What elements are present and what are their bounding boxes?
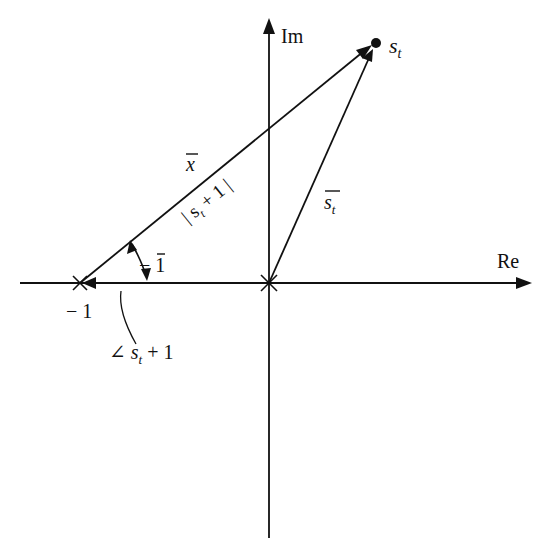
real-axis-label: Re: [497, 250, 519, 272]
minus-one-label: − 1: [66, 300, 92, 322]
svg-text:x: x: [185, 153, 195, 175]
svg-text:− 1: − 1: [139, 254, 165, 276]
real-axis-arrow-icon: [516, 277, 532, 289]
st-point-icon: [371, 38, 381, 48]
vector-st: [269, 49, 373, 283]
x-bar-label: x: [185, 153, 198, 175]
st-bar-label: st: [324, 191, 340, 217]
real-axis: [20, 277, 532, 289]
neg-one-bar-label: − 1: [139, 254, 165, 276]
magnitude-label: | st + 1 |: [177, 175, 237, 231]
st-label: st: [389, 33, 403, 61]
imag-axis-label: Im: [281, 25, 304, 47]
vector-st-plus-one: [80, 45, 372, 283]
angle-leader-line: [121, 291, 136, 344]
complex-plane-diagram: Im Re st − 1 x st | st + 1 | − 1 ∠ st + …: [0, 0, 548, 552]
imag-axis-arrow-icon: [263, 18, 275, 34]
angle-label: ∠ st + 1: [109, 341, 173, 367]
svg-text:st: st: [324, 191, 336, 217]
